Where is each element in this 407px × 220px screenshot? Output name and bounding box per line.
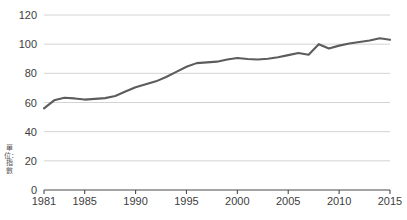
y-axis-tick-labels: 020406080100120	[19, 9, 37, 196]
x-tick-label-2005: 2005	[276, 195, 300, 207]
line-chart-figure: 單位：指數 020406080100120 198119851990199520…	[0, 0, 407, 220]
gridlines-group	[44, 15, 390, 161]
x-tick-label-1995: 1995	[174, 195, 198, 207]
chart-plot-area: 020406080100120 198119851990199520002005…	[0, 0, 407, 220]
y-tick-label-120: 120	[19, 9, 37, 21]
x-tick-label-2010: 2010	[327, 195, 351, 207]
x-tick-label-1981: 1981	[32, 195, 56, 207]
x-tick-label-1985: 1985	[72, 195, 96, 207]
y-tick-label-80: 80	[25, 67, 37, 79]
x-tick-label-1990: 1990	[123, 195, 147, 207]
x-axis	[44, 190, 390, 194]
y-tick-label-40: 40	[25, 126, 37, 138]
y-tick-label-100: 100	[19, 38, 37, 50]
y-tick-label-20: 20	[25, 155, 37, 167]
x-tick-label-2015: 2015	[378, 195, 402, 207]
y-tick-label-60: 60	[25, 97, 37, 109]
x-tick-label-2000: 2000	[225, 195, 249, 207]
x-axis-tick-labels: 19811985199019952000200520102015	[32, 195, 402, 207]
